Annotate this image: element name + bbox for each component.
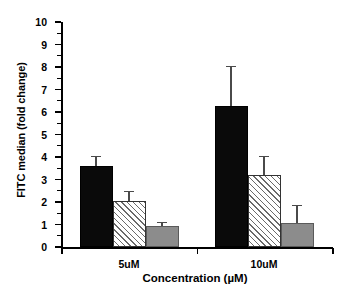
x-tick-major [197, 248, 199, 254]
error-bar-cap [124, 191, 134, 192]
y-tick-label: 4 [41, 151, 47, 163]
error-bar-stem [263, 156, 264, 175]
y-tick-label: 7 [41, 84, 47, 96]
error-bar-cap [226, 66, 236, 67]
error-bar-stem [95, 156, 96, 166]
error-bar-stem [296, 205, 297, 223]
bar [215, 106, 248, 247]
bar [281, 223, 314, 247]
y-tick-label: 0 [41, 241, 47, 253]
x-axis-title: Concentration (µM) [55, 272, 335, 284]
y-tick-label: 6 [41, 106, 47, 118]
y-tick-label: 8 [41, 61, 47, 73]
error-bar-cap [292, 205, 302, 206]
y-tick-label: 1 [41, 219, 47, 231]
error-bar-stem [230, 66, 231, 107]
error-bar-cap [91, 156, 101, 157]
x-tick-label: 5uM [119, 258, 140, 270]
y-tick-label: 10 [35, 16, 47, 28]
x-tick-major [332, 248, 334, 254]
error-bar-cap [157, 222, 167, 223]
bar [248, 175, 281, 247]
bar-chart-figure: FITC median (fold change) 012345678910 5… [0, 0, 341, 297]
x-tick-major [61, 248, 63, 254]
x-tick-label: 10uM [251, 258, 278, 270]
plot-area: 012345678910 5uM10uM [61, 22, 333, 247]
y-tick-label: 3 [41, 174, 47, 186]
error-bar-cap [259, 156, 269, 157]
error-bar-stem [128, 191, 129, 201]
bar [146, 226, 179, 247]
bar [113, 201, 146, 247]
y-axis-title: FITC median (fold change) [10, 10, 32, 250]
y-tick-label: 2 [41, 196, 47, 208]
bar [80, 166, 113, 247]
bars-layer [61, 22, 333, 247]
y-tick-label: 5 [41, 129, 47, 141]
y-tick-label: 9 [41, 39, 47, 51]
